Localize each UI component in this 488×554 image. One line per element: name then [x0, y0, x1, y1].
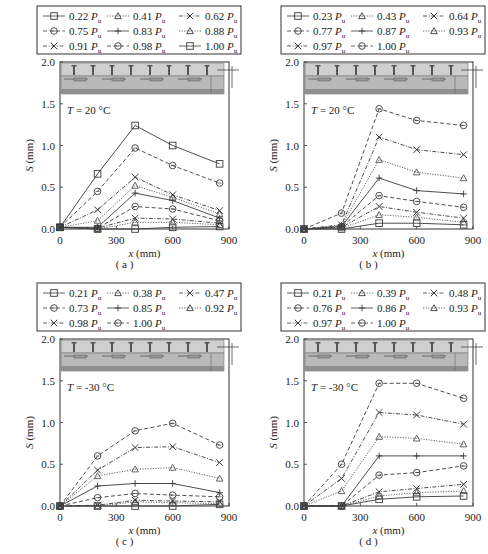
series-line — [57, 174, 223, 231]
x-tick-label: 0 — [57, 234, 63, 246]
series-line — [57, 443, 223, 509]
circle-marker — [132, 203, 139, 210]
x-marker — [460, 481, 467, 488]
series-line — [301, 192, 467, 232]
chart-svg: 0.23 Pu0.43 Pu0.64 Pu0.77 Pu0.87 Pu0.93 … — [244, 0, 488, 277]
x-tick-label: 600 — [164, 511, 181, 523]
temperature-annotation: T = 20 °C — [311, 104, 354, 116]
temperature-annotation: T = -30 °C — [311, 381, 358, 393]
x-marker — [376, 134, 383, 141]
plus-marker — [413, 187, 420, 194]
series-line — [57, 145, 223, 231]
circle-marker — [338, 210, 345, 217]
y-tick-label: 1.0 — [285, 140, 299, 152]
legend: 0.21 Pu0.38 Pu0.47 Pu0.73 Pu0.85 Pu0.92 … — [37, 283, 241, 332]
chart-svg: 0.21 Pu0.38 Pu0.47 Pu0.73 Pu0.85 Pu0.92 … — [0, 277, 244, 554]
series-line — [301, 433, 467, 508]
panel-label: ( d ) — [359, 535, 378, 548]
y-tick-label: 1.5 — [41, 98, 55, 110]
data-series — [301, 380, 467, 509]
panel-label: ( c ) — [116, 535, 134, 548]
circle-marker — [132, 428, 139, 435]
x-marker — [216, 207, 223, 214]
circle-marker — [94, 453, 101, 460]
y-tick-label: 2.0 — [41, 56, 55, 68]
series-line — [57, 122, 223, 230]
circle-marker — [169, 162, 176, 169]
data-series — [301, 105, 467, 232]
triangle-marker — [376, 212, 383, 218]
x-tick-label: 300 — [108, 234, 125, 246]
triangle-marker — [169, 464, 176, 470]
y-tick-label: 0.5 — [285, 181, 299, 193]
circle-marker — [216, 180, 223, 187]
chart-svg: 0.22 Pu0.41 Pu0.62 Pu0.75 Pu0.83 Pu0.88 … — [0, 0, 244, 277]
y-tick-label: 1.5 — [285, 375, 299, 387]
circle-marker — [376, 192, 383, 199]
x-tick-label: 0 — [57, 511, 63, 523]
x-tick-label: 600 — [408, 234, 425, 246]
y-tick-label: 0.0 — [285, 500, 299, 512]
x-tick-label: 900 — [221, 234, 238, 246]
chart-panel-c: 0.21 Pu0.38 Pu0.47 Pu0.73 Pu0.85 Pu0.92 … — [0, 277, 244, 554]
x-marker — [132, 174, 139, 181]
circle-marker — [169, 206, 176, 213]
y-axis-label: S (mm) — [267, 416, 280, 449]
beam-diagram — [305, 63, 483, 94]
x-tick-label: 0 — [301, 234, 307, 246]
y-tick-label: 1.5 — [41, 375, 55, 387]
temperature-annotation: T = 20 °C — [67, 104, 110, 116]
temperature-annotation: T = -30 °C — [67, 381, 114, 393]
circle-marker — [376, 105, 383, 112]
chart-panel-b: 0.23 Pu0.43 Pu0.64 Pu0.77 Pu0.87 Pu0.93 … — [244, 0, 488, 277]
data-series — [57, 122, 223, 232]
y-axis-label: S (mm) — [267, 139, 280, 172]
circle-marker — [216, 442, 223, 449]
beam-diagram — [305, 340, 483, 371]
x-tick-label: 0 — [301, 511, 307, 523]
y-tick-label: 0.0 — [285, 223, 299, 235]
circle-marker — [338, 461, 345, 468]
circle-marker — [376, 472, 383, 479]
x-marker — [338, 475, 345, 482]
circle-marker — [94, 188, 101, 195]
series-line — [301, 453, 467, 510]
plus-marker — [413, 453, 420, 460]
triangle-marker — [338, 488, 345, 494]
chart-panel-d: 0.21 Pu0.39 Pu0.48 Pu0.76 Pu0.86 Pu0.93 … — [244, 277, 488, 554]
triangle-marker — [132, 499, 139, 505]
panel-label: ( a ) — [116, 258, 134, 271]
beam-diagram — [61, 340, 239, 371]
y-tick-label: 2.0 — [285, 56, 299, 68]
y-tick-label: 1.5 — [285, 98, 299, 110]
series-line — [57, 182, 223, 230]
data-series — [57, 420, 223, 509]
triangle-marker — [376, 156, 383, 162]
circle-marker — [413, 117, 420, 124]
legend: 0.23 Pu0.43 Pu0.64 Pu0.77 Pu0.87 Pu0.93 … — [281, 6, 485, 55]
x-marker — [169, 191, 176, 198]
x-marker — [132, 215, 139, 222]
plus-marker — [460, 453, 467, 460]
y-tick-label: 1.0 — [41, 417, 55, 429]
y-tick-label: 1.0 — [41, 140, 55, 152]
circle-marker — [132, 145, 139, 152]
circle-marker — [413, 380, 420, 387]
x-tick-label: 600 — [164, 234, 181, 246]
series-line — [301, 134, 467, 232]
y-axis-label: S (mm) — [23, 139, 36, 172]
series-line — [57, 464, 223, 508]
triangle-marker — [94, 217, 101, 223]
triangle-marker — [460, 441, 467, 447]
y-tick-label: 0.5 — [41, 181, 55, 193]
x-tick-label: 900 — [465, 234, 482, 246]
beam-diagram — [61, 63, 239, 94]
x-tick-label: 900 — [465, 511, 482, 523]
panel-label: ( b ) — [359, 258, 378, 271]
y-tick-label: 0.0 — [41, 500, 55, 512]
y-tick-label: 2.0 — [285, 333, 299, 345]
x-marker — [460, 215, 467, 222]
circle-marker — [460, 395, 467, 402]
legend: 0.21 Pu0.39 Pu0.48 Pu0.76 Pu0.86 Pu0.93 … — [281, 283, 485, 332]
y-axis-label: S (mm) — [23, 416, 36, 449]
